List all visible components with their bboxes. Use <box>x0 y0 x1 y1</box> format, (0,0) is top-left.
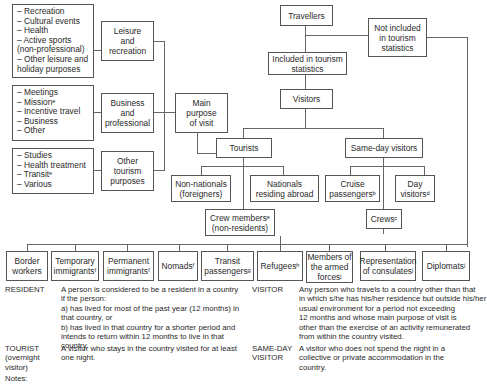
connector <box>426 37 468 38</box>
connector <box>305 35 368 36</box>
crews-box: Crewsᶜ <box>366 209 402 229</box>
connector <box>350 166 425 167</box>
connector <box>305 74 306 89</box>
term-same-day-visitor: SAME-DAY VISITOR <box>252 344 292 363</box>
definition-tourist: A visitor who stays in the country visit… <box>61 344 246 363</box>
term-visitor: VISITOR <box>252 285 283 294</box>
connector <box>280 244 281 251</box>
refugees-box: Refugeesʰ <box>257 251 303 281</box>
connector <box>27 244 468 245</box>
main-purpose-box: Main purpose of visit <box>175 93 228 133</box>
connector <box>227 244 228 251</box>
definition-resident: A person is considered to be a resident … <box>61 285 246 351</box>
same-day-visitors-box: Same-day visitors <box>345 138 423 158</box>
diplomats-box: Diplomatsʲ <box>422 251 470 281</box>
business-professional-box: Business and professional <box>101 93 154 133</box>
connector <box>283 166 284 175</box>
temporary-immigrants-box: Temporary immigrantsᶠ <box>51 251 99 281</box>
day-visitors-box: Day visitorsᵈ <box>395 175 435 202</box>
nationals-abroad-box: Nationals residing abroad <box>250 175 319 202</box>
definition-visitor: Any person who travels to a country othe… <box>299 285 487 341</box>
connector <box>127 244 128 251</box>
visitors-box: Visitors <box>280 89 333 109</box>
border-workers-box: Border workers <box>6 251 48 281</box>
cruise-passengers-box: Cruise passengersᵇ <box>325 175 380 202</box>
non-nationals-box: Non-nationals (foreigners) <box>171 175 231 202</box>
connector <box>179 244 180 251</box>
nomads-box: Nomadsᶠ <box>158 251 198 281</box>
connector <box>243 128 384 129</box>
other-purpose-list: – Studies – Health treatment – Transitᵉ … <box>12 148 94 194</box>
connector <box>446 244 447 251</box>
transit-passengers-box: Transit passengersᵍ <box>201 251 254 281</box>
connector <box>424 166 425 175</box>
travellers-box: Travellers <box>280 5 333 26</box>
definition-same-day-visitor: A visitor who does not spend the night i… <box>299 344 487 372</box>
connector <box>243 128 244 138</box>
connector <box>201 166 202 175</box>
connector <box>329 244 330 251</box>
connector <box>201 166 284 167</box>
consulates-box: Representation of consulatesʲ <box>360 251 416 281</box>
connector <box>197 132 198 154</box>
connector <box>280 236 281 244</box>
term-tourist: TOURIST (overnight visitor) <box>5 344 40 372</box>
included-box: Included in tourism statistics <box>268 52 347 75</box>
other-tourism-purposes-box: Other tourism purposes <box>101 151 154 191</box>
permanent-immigrants-box: Permanent immigrantsᶠ <box>103 251 154 281</box>
connector <box>305 25 306 52</box>
not-included-box: Not included in tourism statistics <box>368 18 427 57</box>
connector <box>350 166 351 175</box>
connector <box>467 37 468 247</box>
connector <box>305 108 306 128</box>
connector <box>75 244 76 251</box>
connector <box>385 244 386 251</box>
tourists-box: Tourists <box>216 138 272 158</box>
connector <box>197 153 217 154</box>
leisure-recreation-box: Leisure and recreation <box>101 21 154 61</box>
connector <box>27 244 28 251</box>
armed-forces-box: Members of the armed forcesʲ <box>306 251 353 283</box>
leisure-purpose-list: – Recreation – Cultural events – Health … <box>12 4 94 78</box>
business-purpose-list: – Meetings – Missionᵉ – Incentive travel… <box>12 85 94 141</box>
crew-members-box: Crew membersᵉ (non-residents) <box>205 209 275 236</box>
notes-label: Notes: <box>5 374 28 383</box>
connector <box>164 41 165 171</box>
connector <box>383 128 384 138</box>
term-resident: RESIDENT <box>5 285 44 294</box>
